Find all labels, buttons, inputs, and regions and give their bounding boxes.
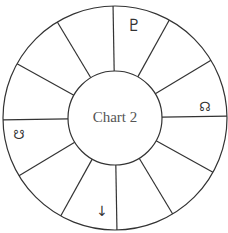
house-cusp-line <box>61 159 93 216</box>
pluto-icon: ♇ <box>126 15 141 35</box>
house-cusp-line <box>57 22 90 78</box>
house-cusp-line <box>155 60 211 93</box>
house-cusp-line <box>139 158 172 214</box>
house-cusp-line <box>156 141 213 173</box>
house-cusp-line <box>138 20 170 77</box>
down-arrow-icon: ↓ <box>96 203 108 219</box>
house-cusp-line <box>116 165 117 230</box>
south-node-icon: ☋ <box>13 127 25 142</box>
chart-wheel: Chart 2 ♇☊☋↓ <box>0 0 228 233</box>
house-cusp-line <box>3 119 68 120</box>
chart-title: Chart 2 <box>93 109 138 125</box>
house-cusp-line <box>162 116 227 117</box>
house-cusp-line <box>113 6 114 71</box>
north-node-icon: ☊ <box>199 99 211 114</box>
house-cusp-line <box>19 142 75 175</box>
house-cusp-line <box>17 64 74 96</box>
